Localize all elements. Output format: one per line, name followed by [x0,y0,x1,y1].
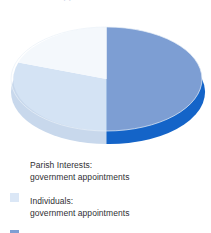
legend-item-individuals: Individuals: government appointments [0,190,211,219]
legend-label-individuals: Individuals: government appointments [30,196,211,219]
legend-swatch-parish-interests [10,157,19,166]
legend-item-local-authority: Local authority appointments [0,227,211,233]
legend: Parish Interests: government appointment… [0,154,211,233]
legend-swatch-local-authority [10,230,19,233]
cutoff-title-text: appointments [58,0,117,1]
legend-item-parish-interests: Parish Interests: government appointment… [0,154,211,183]
legend-swatch-individuals [10,193,19,202]
pie-chart [0,6,211,154]
legend-label-parish-interests: Parish Interests: government appointment… [30,160,211,183]
pie-chart-svg [0,6,211,154]
